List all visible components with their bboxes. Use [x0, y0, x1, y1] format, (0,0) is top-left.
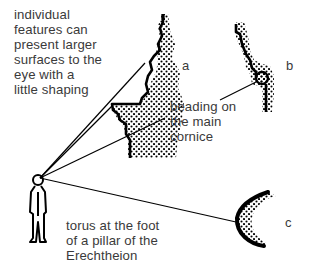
profile-c [237, 192, 276, 246]
profile-letter-b: b [286, 58, 293, 73]
profile-letter-c: c [285, 215, 292, 230]
profile-letter-a: a [182, 58, 189, 73]
label-torus: torus at the foot of a pillar of the Ere… [66, 218, 159, 261]
label-beading: beading on the main cornice [170, 99, 236, 144]
viewer-figure [30, 175, 46, 242]
label-individual-features: individual features can present larger s… [14, 7, 102, 97]
